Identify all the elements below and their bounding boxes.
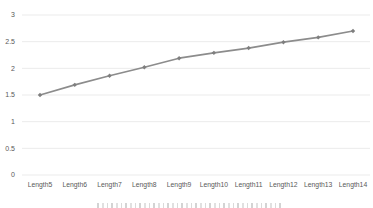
- line-chart: 00.511.522.53Length5Length6Length7Length…: [0, 0, 373, 208]
- x-axis-label: Length12: [269, 181, 298, 189]
- x-axis-label: Length10: [200, 181, 229, 189]
- x-axis-label: Length13: [304, 181, 333, 189]
- data-point-marker: [38, 93, 42, 97]
- x-axis-label: Length14: [339, 181, 368, 189]
- data-point-marker: [316, 35, 320, 39]
- data-point-marker: [212, 51, 216, 55]
- x-axis-label: Length8: [132, 181, 157, 189]
- y-tick-label: 3: [11, 11, 15, 18]
- y-tick-label: 0.5: [5, 145, 15, 152]
- x-axis-label: Length6: [62, 181, 87, 189]
- y-tick-label: 1: [11, 118, 15, 125]
- y-tick-label: 1.5: [5, 91, 15, 98]
- y-tick-label: 0: [11, 171, 15, 178]
- x-axis-label: Length5: [28, 181, 53, 189]
- x-axis-label: Length11: [235, 181, 263, 189]
- data-point-marker: [177, 56, 181, 60]
- y-tick-label: 2.5: [5, 38, 15, 45]
- y-tick-label: 2: [11, 65, 15, 72]
- chart-canvas: 00.511.522.53Length5Length6Length7Length…: [0, 0, 373, 208]
- series-line: [40, 31, 353, 95]
- x-axis-label: Length9: [167, 181, 192, 189]
- x-axis-label: Length7: [97, 181, 122, 189]
- data-point-marker: [73, 83, 77, 87]
- data-point-marker: [107, 74, 111, 78]
- data-point-marker: [246, 46, 250, 50]
- data-point-marker: [281, 40, 285, 44]
- truncated-caption: [97, 203, 282, 208]
- data-point-marker: [351, 29, 355, 33]
